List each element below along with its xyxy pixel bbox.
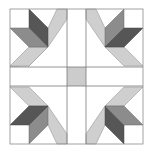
quilt-block-diagram — [0, 0, 149, 160]
center-square — [67, 67, 86, 86]
